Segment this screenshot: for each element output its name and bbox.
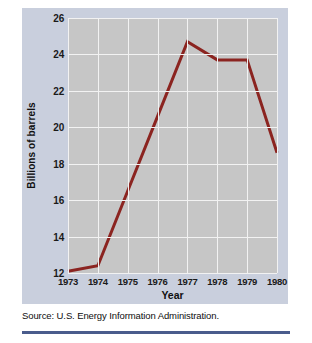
plot-area <box>68 18 277 273</box>
y-tick-label: 24 <box>53 49 64 60</box>
gridline-vertical <box>187 18 188 273</box>
figure-container: Billions of barrels 1214161820222426 197… <box>0 0 312 343</box>
y-tick-label: 20 <box>53 122 64 133</box>
x-tick-label: 1980 <box>267 276 287 287</box>
data-series-line <box>68 18 277 273</box>
y-tick-label: 16 <box>53 195 64 206</box>
x-tick-label: 1976 <box>148 276 168 287</box>
x-tick-label: 1977 <box>177 276 197 287</box>
gridline-horizontal <box>68 127 277 128</box>
gridline-vertical <box>217 18 218 273</box>
gridline-vertical <box>68 18 69 273</box>
bottom-rule <box>22 331 290 334</box>
x-tick-label: 1973 <box>58 276 78 287</box>
y-tick-label: 18 <box>53 158 64 169</box>
gridline-vertical <box>277 18 278 273</box>
y-tick-label: 26 <box>53 13 64 24</box>
gridline-horizontal <box>68 164 277 165</box>
y-axis-tick-labels: 1214161820222426 <box>40 18 64 273</box>
y-axis-title: Billions of barrels <box>24 18 38 273</box>
y-axis-title-text: Billions of barrels <box>26 102 37 188</box>
x-axis-title: Year <box>68 289 277 301</box>
x-tick-label: 1974 <box>88 276 108 287</box>
gridline-horizontal <box>68 200 277 201</box>
gridline-vertical <box>128 18 129 273</box>
x-tick-label: 1978 <box>207 276 227 287</box>
y-tick-label: 14 <box>53 231 64 242</box>
gridline-horizontal <box>68 237 277 238</box>
x-tick-label: 1979 <box>237 276 257 287</box>
y-tick-label: 22 <box>53 85 64 96</box>
gridline-horizontal <box>68 54 277 55</box>
gridline-vertical <box>158 18 159 273</box>
gridline-horizontal <box>68 18 277 19</box>
gridline-horizontal <box>68 91 277 92</box>
x-axis-tick-labels: 19731974197519761977197819791980 <box>68 276 277 290</box>
gridline-vertical <box>98 18 99 273</box>
gridline-vertical <box>247 18 248 273</box>
x-tick-label: 1975 <box>118 276 138 287</box>
source-caption: Source: U.S. Energy Information Administ… <box>22 310 290 321</box>
gridline-horizontal <box>68 273 277 274</box>
